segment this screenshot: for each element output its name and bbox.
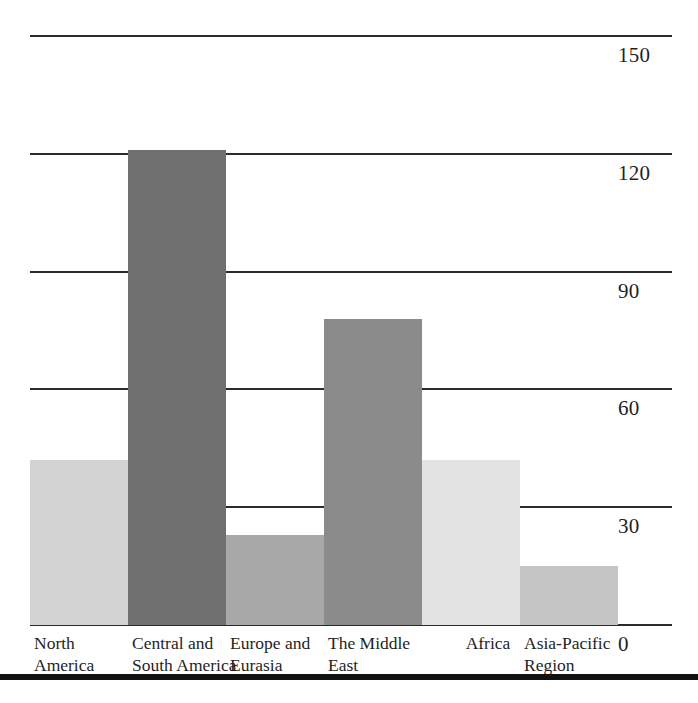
bar-2[interactable] [226, 535, 324, 625]
bars-group [30, 36, 672, 625]
bar-5[interactable] [520, 566, 618, 625]
bar-3[interactable] [324, 319, 422, 625]
bar-1[interactable] [128, 150, 226, 625]
bar-4[interactable] [422, 460, 520, 625]
x-tick-label-5: Asia-Pacific Region [524, 632, 648, 676]
y-tick-label-60: 60 [618, 398, 678, 419]
plot-area [30, 36, 672, 625]
bar-0[interactable] [30, 460, 128, 625]
y-tick-label-150: 150 [618, 45, 678, 66]
y-tick-label-120: 120 [618, 163, 678, 184]
y-tick-label-30: 30 [618, 516, 678, 537]
bar-chart: 0306090120150 North AmericaCentral and S… [0, 0, 698, 703]
x-axis-category-labels: North AmericaCentral and South AmericaEu… [30, 632, 672, 678]
y-tick-label-90: 90 [618, 281, 678, 302]
bottom-rule [0, 674, 698, 680]
